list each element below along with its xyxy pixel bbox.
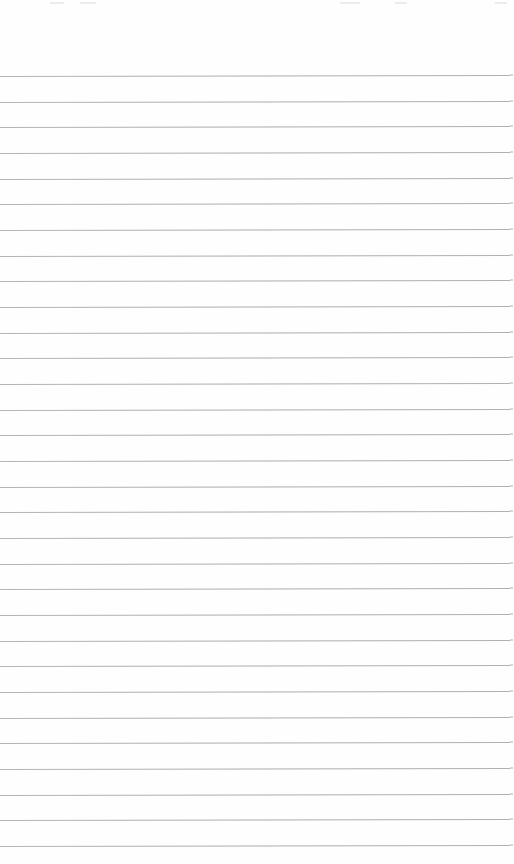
ruled-line bbox=[0, 460, 510, 462]
ruled-line bbox=[0, 537, 510, 539]
ruled-line bbox=[0, 717, 510, 719]
scan-artifact bbox=[340, 2, 360, 4]
ruled-line bbox=[0, 203, 510, 205]
ruled-line bbox=[0, 178, 510, 180]
scan-artifact bbox=[80, 2, 96, 4]
ruled-line bbox=[0, 280, 510, 282]
scan-artifact bbox=[50, 2, 64, 4]
ruled-line bbox=[0, 794, 510, 796]
ruled-line bbox=[0, 255, 510, 257]
ruled-line bbox=[0, 75, 510, 77]
ruled-line bbox=[0, 126, 510, 128]
ruled-line bbox=[0, 486, 510, 488]
ruled-line bbox=[0, 845, 510, 847]
ruled-line bbox=[0, 306, 510, 308]
ruled-line bbox=[0, 742, 510, 744]
ruled-line bbox=[0, 511, 510, 513]
ruled-line bbox=[0, 332, 510, 334]
scan-artifact bbox=[395, 2, 407, 4]
ruled-line bbox=[0, 614, 510, 616]
ruled-line bbox=[0, 640, 510, 642]
ruled-line bbox=[0, 229, 510, 231]
ruled-line bbox=[0, 357, 510, 359]
ruled-line bbox=[0, 819, 510, 821]
ruled-line bbox=[0, 409, 510, 411]
scan-artifact bbox=[495, 2, 507, 4]
ruled-line bbox=[0, 563, 510, 565]
ruled-line bbox=[0, 665, 510, 667]
ruled-paper-sheet bbox=[0, 0, 514, 864]
ruled-line bbox=[0, 152, 510, 154]
ruled-line bbox=[0, 768, 510, 770]
ruled-line bbox=[0, 691, 510, 693]
ruled-line bbox=[0, 101, 510, 103]
ruled-line bbox=[0, 434, 510, 436]
ruled-line bbox=[0, 383, 510, 385]
ruled-line bbox=[0, 588, 510, 590]
